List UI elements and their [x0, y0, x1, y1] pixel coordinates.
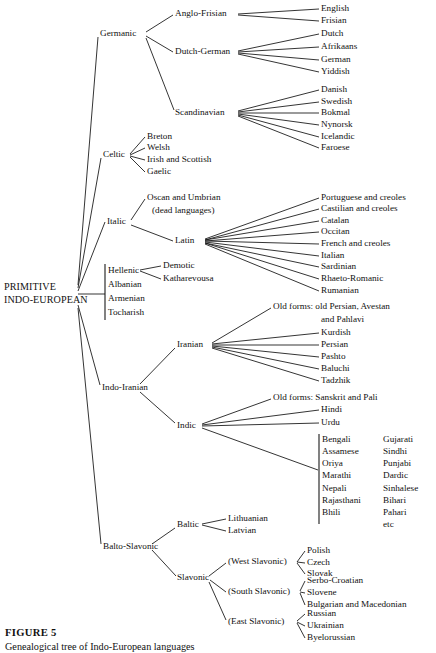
branch-line-latin-italian — [205, 242, 319, 256]
node-label-germanic: Germanic — [100, 28, 136, 38]
leaf-label-french: French and creoles — [321, 238, 391, 248]
leaf-label-catalan: Catalan — [321, 215, 349, 225]
branch-line-iranian-baluchi — [212, 347, 319, 369]
branch-line-latin-french — [205, 241, 319, 244]
indic-col1-item-3: Marathi — [322, 470, 352, 480]
branch-line-latin-portuguese — [205, 198, 319, 239]
branch-line-latin-castilian — [205, 209, 319, 240]
leaf-label-gaelic: Gaelic — [147, 166, 171, 176]
branch-line-bs-slavonic — [152, 550, 176, 576]
node-label-iranian: Iranian — [177, 339, 203, 349]
branch-line-west-slovak — [297, 563, 305, 574]
leaf-label-serbo-croatian: Serbo-Croatian — [307, 575, 364, 585]
leaf-label-katharevousa: Katharevousa — [163, 273, 214, 283]
indic-col2-item-2: Punjabi — [383, 458, 412, 468]
indic-col1-item-2: Oriya — [322, 458, 343, 468]
node-label-hellenic: Hellenic — [108, 265, 139, 275]
indic-col2-item-5: Bihari — [383, 495, 406, 505]
branch-line-latin-rumanian — [205, 244, 319, 291]
branch-line-south-slovene — [300, 592, 305, 593]
branch-line-sc-faroese — [238, 116, 319, 148]
root-label-line-1: PRIMITIVE — [4, 281, 56, 292]
figure-caption-subtitle: Genealogical tree of Indo-European langu… — [5, 640, 425, 653]
leaf-label-dead-languages: (dead languages) — [152, 205, 215, 215]
leaf-label-breton: Breton — [147, 131, 172, 141]
leaf-label-demotic: Demotic — [163, 260, 195, 270]
leaf-label-oscan-umbrian: Oscan and Umbrian — [147, 192, 221, 202]
leaf-label-hindi: Hindi — [321, 404, 342, 414]
node-label-armenian: Armenian — [108, 293, 145, 303]
leaf-label-iranian-old-1: Old forms: old Persian, Avestan — [273, 301, 390, 311]
leaf-label-italian: Italian — [321, 250, 345, 260]
branch-line-iranian-old — [212, 308, 271, 343]
figure-caption-title: FIGURE 5 — [5, 626, 425, 639]
node-label-balto-slavonic: Balto-Slavonic — [103, 541, 158, 551]
branch-line-west-polish — [297, 551, 305, 562]
leaf-label-sardinian: Sardinian — [321, 261, 357, 271]
node-label-slavonic: Slavonic — [177, 572, 209, 582]
node-label-albanian: Albanian — [108, 279, 142, 289]
branch-line-anglo-english — [238, 9, 319, 14]
branch-line-indic-urdu — [202, 423, 319, 426]
branch-line-south-serbo — [300, 581, 305, 591]
branch-line-west-czech — [297, 562, 305, 563]
branch-line-ii-indic — [140, 392, 175, 423]
branch-line-germanic-anglo — [146, 15, 173, 32]
branch-line-iranian-pashto — [212, 346, 319, 357]
root-label-group: PRIMITIVEINDO-EUROPEAN — [4, 281, 88, 305]
leaf-label-indic-old: Old forms: Sanskrit and Pali — [273, 392, 378, 402]
branch-line-indic-group — [202, 428, 318, 470]
leaf-label-occitan: Occitan — [321, 226, 350, 236]
node-label-indo-iranian: Indo-Iranian — [102, 382, 148, 392]
leaf-label-czech: Czech — [307, 557, 330, 567]
branch-line-sc-icelandic — [238, 115, 319, 137]
node-label-indic: Indic — [177, 420, 196, 430]
branch-line-ii-iranian — [140, 348, 175, 384]
indic-col2-item-0: Gujarati — [383, 434, 414, 444]
leaf-label-irish-and-scottish: Irish and Scottish — [147, 154, 212, 164]
branch-line-latin-occitan — [205, 232, 319, 241]
node-label-west-slavonic: (West Slavonic) — [228, 556, 287, 566]
node-label-scandinavian: Scandinavian — [175, 107, 225, 117]
branch-line-baltic-lith — [202, 519, 226, 524]
branch-line-italic-latin — [131, 225, 173, 241]
leaf-label-icelandic: Icelandic — [321, 131, 355, 141]
branch-line-dg-dutch — [238, 34, 319, 51]
indic-col1-item-1: Assamese — [322, 446, 359, 456]
leaf-label-swedish: Swedish — [321, 96, 353, 106]
node-label-south-slavonic: (South Slavonic) — [228, 586, 290, 596]
leaf-label-yiddish: Yiddish — [321, 66, 350, 76]
branch-line-sc-swedish — [238, 102, 319, 112]
leaf-label-bokmal: Bokmal — [321, 107, 351, 117]
branch-line-hellenic-kathar — [140, 271, 161, 279]
indic-col2-item-6: Pahari — [383, 507, 407, 517]
indic-col1-item-4: Nepali — [322, 483, 347, 493]
branch-line-sc-nynorsk — [238, 114, 319, 125]
indic-language-columns-group: BengaliAssameseOriyaMarathiNepaliRajasth… — [322, 434, 418, 529]
indic-col2-item-7: etc — [383, 519, 394, 529]
branch-line-germanic-scand — [146, 38, 174, 110]
leaf-label-castilian: Castilian and creoles — [321, 203, 398, 213]
branch-line-east-russian — [297, 614, 305, 621]
leaf-label-english: English — [321, 3, 349, 13]
leaf-label-dutch: Dutch — [321, 28, 344, 38]
leaf-label-kurdish: Kurdish — [321, 327, 351, 337]
branch-line-south-bulgarian — [300, 593, 305, 605]
indic-col1-item-0: Bengali — [322, 434, 351, 444]
root-label-line-2: INDO-EUROPEAN — [4, 294, 88, 305]
branch-line-anglo-frisian-leaf — [238, 15, 319, 21]
leaf-label-german: German — [321, 54, 351, 64]
branch-line-baltic-latvian — [202, 525, 226, 531]
branch-line-sc-danish — [238, 90, 319, 111]
branch-line-latin-sardinian — [205, 243, 319, 267]
branch-line-root-celtic — [78, 158, 101, 288]
branch-line-slav-west — [209, 563, 226, 576]
leaf-label-frisian: Frisian — [321, 15, 347, 25]
leaf-label-portuguese: Portuguese and creoles — [321, 192, 406, 202]
leaf-label-rhaeto-romanic: Rhaeto-Romanic — [321, 273, 383, 283]
leaf-label-welsh: Welsh — [147, 142, 170, 152]
node-label-dutch-german: Dutch-German — [175, 46, 231, 56]
leaf-label-slovene: Slovene — [307, 587, 337, 597]
node-label-italic: Italic — [107, 216, 126, 226]
